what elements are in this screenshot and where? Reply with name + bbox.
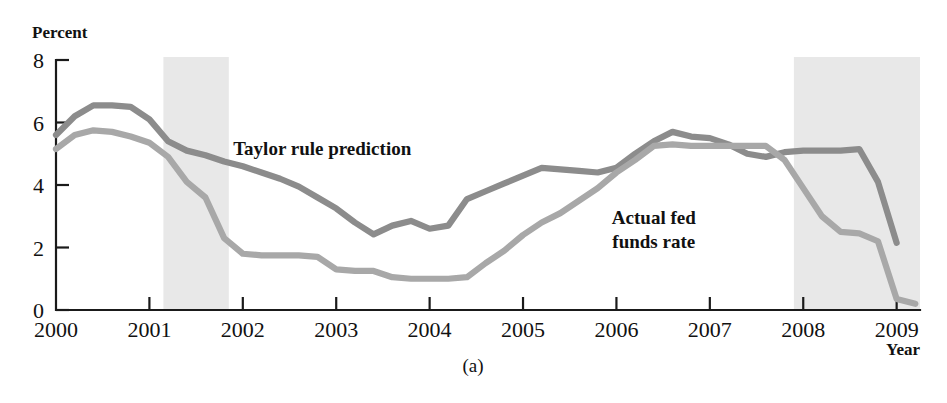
x-tick-label: 2004	[408, 317, 452, 342]
figure-caption: (a)	[462, 355, 483, 377]
y-tick-label: 4	[33, 173, 44, 198]
recession-band	[794, 57, 920, 310]
recession-bands	[163, 57, 920, 310]
x-axis-title: Year	[886, 340, 920, 359]
y-tick-label: 2	[33, 236, 44, 261]
taylor-rule-chart: 0246820002001200220032004200520062007200…	[0, 0, 947, 403]
x-tick-label: 2008	[781, 317, 825, 342]
figure-container: 0246820002001200220032004200520062007200…	[0, 0, 947, 403]
series-annotations: Taylor rule predictionActual fedfunds ra…	[233, 138, 696, 252]
x-tick-label: 2005	[501, 317, 545, 342]
series-annotation-label: funds rate	[612, 231, 695, 252]
x-tick-label: 2003	[314, 317, 358, 342]
x-tick-label: 2006	[594, 317, 638, 342]
x-tick-label: 2007	[688, 317, 732, 342]
x-tick-label: 2001	[127, 317, 171, 342]
y-axis-title: Percent	[32, 23, 88, 42]
x-tick-label: 2002	[221, 317, 265, 342]
recession-band	[163, 57, 228, 310]
series-annotation-label: Actual fed	[612, 207, 696, 228]
y-tick-label: 6	[33, 111, 44, 136]
x-tick-label: 2000	[34, 317, 78, 342]
series-annotation-label: Taylor rule prediction	[233, 138, 411, 159]
y-tick-label: 8	[33, 48, 44, 73]
x-tick-label: 2009	[875, 317, 919, 342]
